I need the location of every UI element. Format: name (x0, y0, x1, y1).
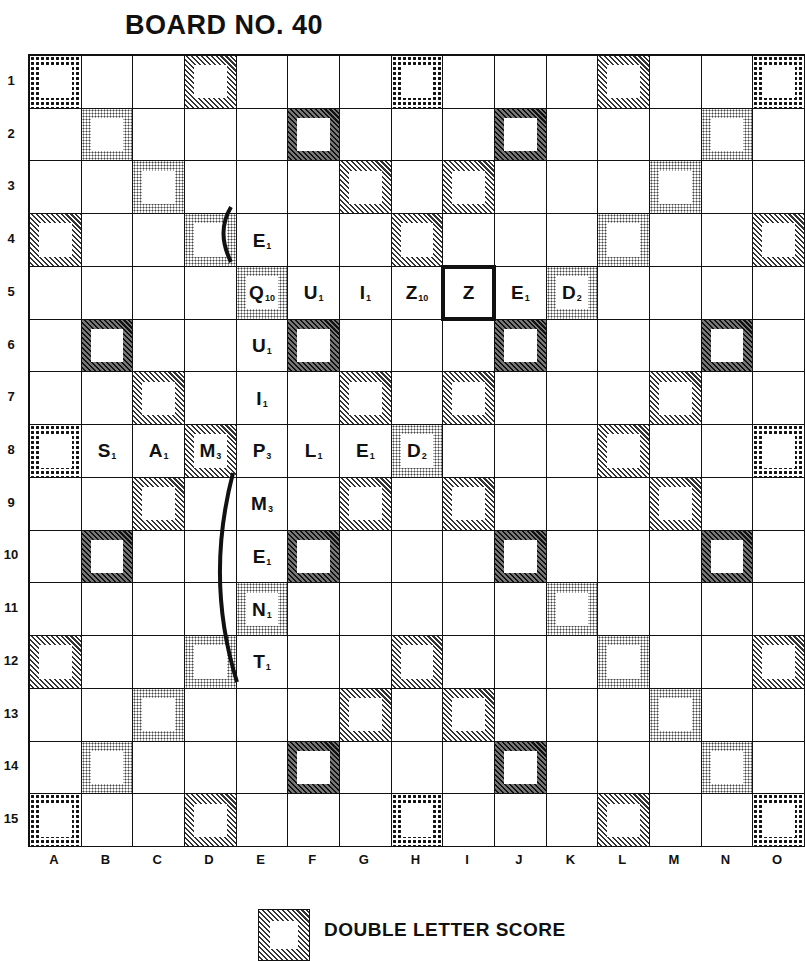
board-square-M15[interactable] (650, 794, 702, 847)
board-square-H4[interactable] (392, 214, 444, 267)
board-square-M14[interactable] (650, 742, 702, 795)
board-square-C10[interactable] (133, 531, 185, 584)
board-square-E5[interactable]: Q10 (237, 267, 289, 320)
board-square-N6[interactable] (702, 320, 754, 373)
board-square-L4[interactable] (598, 214, 650, 267)
board-square-J13[interactable] (495, 689, 547, 742)
board-square-B1[interactable] (82, 56, 134, 109)
board-square-I14[interactable] (443, 742, 495, 795)
board-square-G11[interactable] (340, 583, 392, 636)
board-square-F2[interactable] (288, 109, 340, 162)
board-square-E9[interactable]: M3 (237, 478, 289, 531)
board-square-N15[interactable] (702, 794, 754, 847)
board-square-M7[interactable] (650, 372, 702, 425)
board-square-G10[interactable] (340, 531, 392, 584)
board-square-F1[interactable] (288, 56, 340, 109)
board-square-C8[interactable]: A1 (133, 425, 185, 478)
board-square-H12[interactable] (392, 636, 444, 689)
board-square-E8[interactable]: P3 (237, 425, 289, 478)
board-square-I13[interactable] (443, 689, 495, 742)
board-square-K13[interactable] (547, 689, 599, 742)
board-square-J6[interactable] (495, 320, 547, 373)
board-square-H13[interactable] (392, 689, 444, 742)
board-square-K1[interactable] (547, 56, 599, 109)
board-square-D6[interactable] (185, 320, 237, 373)
board-square-K7[interactable] (547, 372, 599, 425)
board-square-B15[interactable] (82, 794, 134, 847)
board-square-O6[interactable] (753, 320, 805, 373)
board-square-C12[interactable] (133, 636, 185, 689)
board-square-I7[interactable] (443, 372, 495, 425)
board-square-F5[interactable]: U1 (288, 267, 340, 320)
board-square-A3[interactable] (30, 161, 82, 214)
board-square-B4[interactable] (82, 214, 134, 267)
board-square-I15[interactable] (443, 794, 495, 847)
board-square-I12[interactable] (443, 636, 495, 689)
board-square-O7[interactable] (753, 372, 805, 425)
board-square-J11[interactable] (495, 583, 547, 636)
board-square-O5[interactable] (753, 267, 805, 320)
board-square-C5[interactable] (133, 267, 185, 320)
board-square-B14[interactable] (82, 742, 134, 795)
board-square-D3[interactable] (185, 161, 237, 214)
board-square-B3[interactable] (82, 161, 134, 214)
board-square-D10[interactable] (185, 531, 237, 584)
board-square-G2[interactable] (340, 109, 392, 162)
board-square-E1[interactable] (237, 56, 289, 109)
board-square-C6[interactable] (133, 320, 185, 373)
board-square-F10[interactable] (288, 531, 340, 584)
board-square-I2[interactable] (443, 109, 495, 162)
board-square-K10[interactable] (547, 531, 599, 584)
board-square-D14[interactable] (185, 742, 237, 795)
board-square-N9[interactable] (702, 478, 754, 531)
board-square-E6[interactable]: U1 (237, 320, 289, 373)
board-square-O15[interactable] (753, 794, 805, 847)
board-square-I5[interactable]: Z (443, 267, 495, 320)
board-square-O8[interactable] (753, 425, 805, 478)
board-square-I11[interactable] (443, 583, 495, 636)
board-square-H3[interactable] (392, 161, 444, 214)
board-square-B9[interactable] (82, 478, 134, 531)
board-square-G5[interactable]: I1 (340, 267, 392, 320)
board-square-N8[interactable] (702, 425, 754, 478)
board-square-K3[interactable] (547, 161, 599, 214)
board-square-O10[interactable] (753, 531, 805, 584)
board-square-A4[interactable] (30, 214, 82, 267)
board-square-F12[interactable] (288, 636, 340, 689)
board-square-L10[interactable] (598, 531, 650, 584)
board-square-N10[interactable] (702, 531, 754, 584)
board-square-H14[interactable] (392, 742, 444, 795)
board-square-G7[interactable] (340, 372, 392, 425)
board-square-N14[interactable] (702, 742, 754, 795)
board-square-C1[interactable] (133, 56, 185, 109)
board-square-C9[interactable] (133, 478, 185, 531)
board-square-H1[interactable] (392, 56, 444, 109)
board-square-E14[interactable] (237, 742, 289, 795)
board-square-O9[interactable] (753, 478, 805, 531)
board-square-H2[interactable] (392, 109, 444, 162)
board-square-J14[interactable] (495, 742, 547, 795)
board-square-O1[interactable] (753, 56, 805, 109)
board-square-J10[interactable] (495, 531, 547, 584)
board-square-C2[interactable] (133, 109, 185, 162)
board-square-J5[interactable]: E1 (495, 267, 547, 320)
board-square-N11[interactable] (702, 583, 754, 636)
board-square-B10[interactable] (82, 531, 134, 584)
board-square-O3[interactable] (753, 161, 805, 214)
board-square-I4[interactable] (443, 214, 495, 267)
board-square-G8[interactable]: E1 (340, 425, 392, 478)
board-square-K4[interactable] (547, 214, 599, 267)
board-square-A12[interactable] (30, 636, 82, 689)
board-square-C4[interactable] (133, 214, 185, 267)
board-square-F11[interactable] (288, 583, 340, 636)
board-square-H11[interactable] (392, 583, 444, 636)
board-square-B13[interactable] (82, 689, 134, 742)
board-square-J7[interactable] (495, 372, 547, 425)
board-square-A8[interactable] (30, 425, 82, 478)
board-square-G13[interactable] (340, 689, 392, 742)
board-square-F4[interactable] (288, 214, 340, 267)
board-square-M13[interactable] (650, 689, 702, 742)
board-square-D2[interactable] (185, 109, 237, 162)
board-square-M6[interactable] (650, 320, 702, 373)
board-square-K6[interactable] (547, 320, 599, 373)
